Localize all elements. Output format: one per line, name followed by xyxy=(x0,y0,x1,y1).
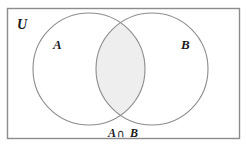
universe-label: U xyxy=(17,17,28,32)
set-b-label: B xyxy=(180,37,190,52)
venn-diagram-figure: U A B A ∩ B xyxy=(0,0,247,147)
intersection-operator-icon: ∩ xyxy=(117,127,125,140)
venn-diagram-canvas: U A B A ∩ B xyxy=(0,0,247,147)
set-a-label: A xyxy=(52,37,62,52)
caption-left-set: A xyxy=(107,126,116,140)
caption-right-set: B xyxy=(129,126,138,140)
caption: A ∩ B xyxy=(107,126,138,140)
